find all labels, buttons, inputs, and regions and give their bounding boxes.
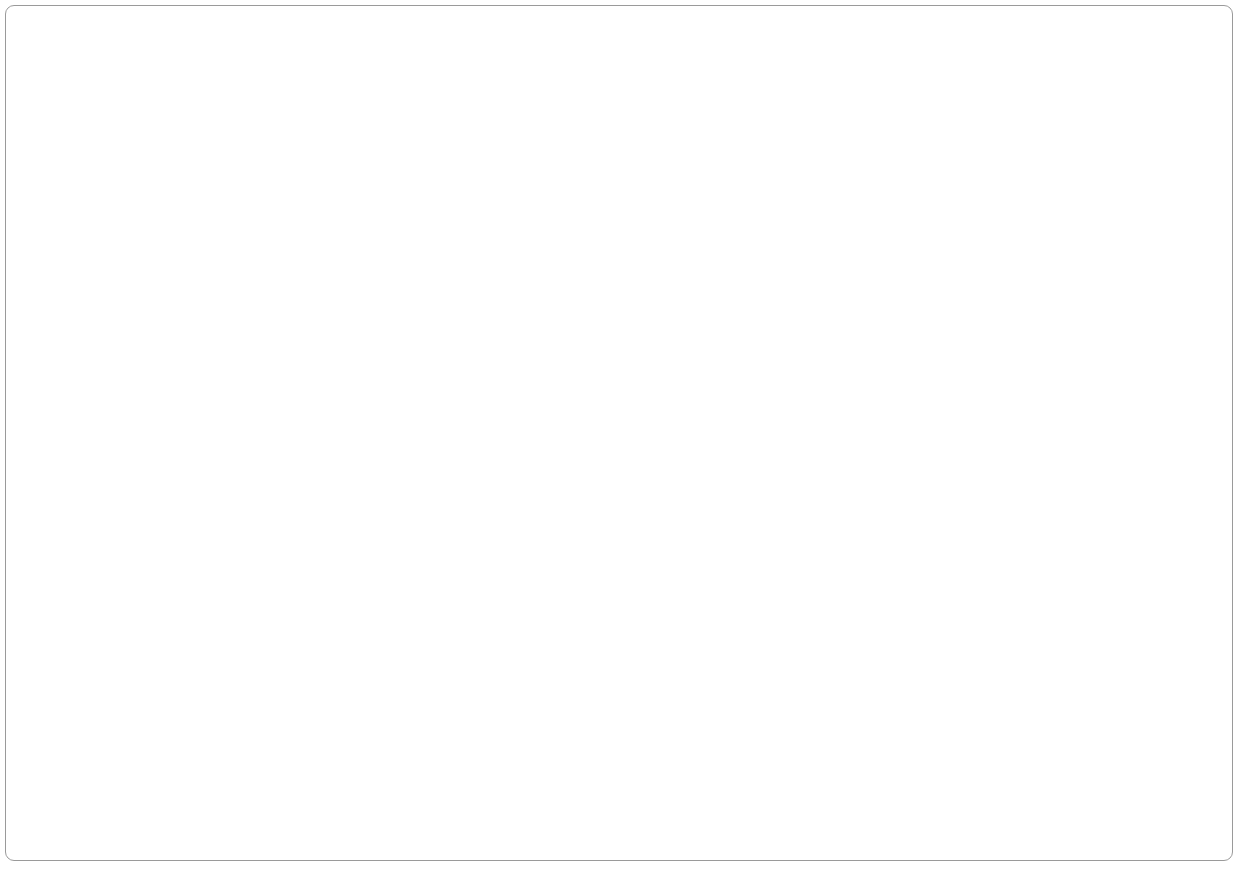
figure-panels xyxy=(0,0,1238,735)
figure-chart-area xyxy=(0,0,1238,735)
figure-root xyxy=(0,0,1238,869)
